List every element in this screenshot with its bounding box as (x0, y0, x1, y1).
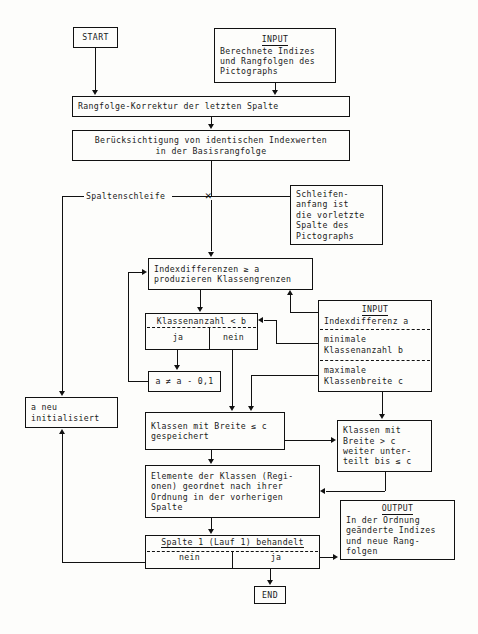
node-beruecksichtigung: Berücksichtigung von identischen Indexwe… (72, 130, 350, 161)
input-right-heading: INPUT (362, 304, 388, 315)
arrow-inputright-to-klassenbreiter (379, 414, 385, 419)
klassen-gespeichert-line2: gespeichert (146, 431, 284, 441)
output-heading-wrap: OUTPUT (341, 503, 454, 514)
edge-klassenanzahl-ja (177, 350, 178, 365)
input-right-sec1-line1: Indexdifferenz a (319, 316, 431, 326)
indexdifferenzen-line1: Indexdifferenzen ≥ a (149, 264, 312, 274)
edge-inputright-sec2-into (264, 320, 276, 321)
arrow-junction-to-indexdifferenzen (208, 252, 214, 257)
end-label: END (255, 590, 285, 600)
rangfolge-korrektur-line1: Rangfolge-Korrektur der letzten Spalte (73, 101, 349, 111)
node-a-dekrement: a ≠ a - 0,1 (148, 371, 221, 392)
edge-spalte-nein-left (62, 562, 146, 563)
edge-schleifenanfang-to-junction (211, 196, 290, 197)
schleifenanfang-line5: Pictographs (291, 231, 382, 241)
arrow-breiter-to-elemente (320, 488, 325, 494)
edge-adekrement-left (128, 381, 149, 382)
input-right-divider-2 (320, 360, 430, 361)
node-klassen-gespeichert: Klassen mit Breite ≤ c gespeichert (145, 412, 285, 450)
output-line1: In der Ordnung (341, 515, 454, 525)
edge-inputright-sec2-up (276, 320, 277, 343)
schleifenanfang-line1: Schleifen- (291, 189, 382, 199)
spaltenschleife-label: Spaltenschleife (86, 191, 165, 201)
edge-inputright-sec1-left (290, 312, 318, 313)
indexdifferenzen-line2: produzieren Klassengrenzen (149, 274, 312, 284)
input-right-divider-1 (320, 329, 430, 330)
elemente-line3: Ordnung in der vorherigen (146, 492, 319, 502)
input-top-line3: Pictographs (215, 66, 335, 76)
klassen-breiter-line3: weiter unter- (338, 446, 431, 456)
edge-inputtop-to-rangfolge (275, 83, 276, 90)
klassenanzahl-branch-yes: ja (146, 332, 210, 342)
edge-breiter-to-elemente (326, 491, 385, 492)
schleifenanfang-line4: Spalte des (291, 220, 382, 230)
arrow-klassenanzahl-ja (174, 365, 180, 370)
edge-inputright-sec3-left (251, 375, 318, 376)
edge-spalte-ja-to-end (270, 569, 271, 580)
arrow-spalte-to-output (333, 554, 338, 560)
input-top-line1: Berechnete Indizes (215, 46, 335, 56)
input-top-heading: INPUT (262, 34, 288, 45)
input-right-sec3-line2: Klassenbreite c (319, 376, 431, 386)
spalte-behandelt-branch-divider (232, 552, 233, 568)
flowchart-canvas: START INPUT Berechnete Indizes und Rangf… (0, 0, 478, 634)
a-neu-line2: initialisiert (26, 413, 117, 423)
edge-spalte-nein-up (62, 434, 63, 562)
node-klassen-breiter: Klassen mit Breite > c weiter unter- tei… (337, 420, 432, 472)
edge-junction-to-indexdifferenzen (211, 200, 212, 251)
edge-adekrement-into-index (128, 272, 142, 273)
edge-start-to-rangfolge (95, 48, 96, 90)
klassen-breiter-line1: Klassen mit (338, 425, 431, 435)
spalte-behandelt-condition: Spalte 1 (Lauf 1) behandelt (146, 537, 319, 548)
klassen-gespeichert-line1: Klassen mit Breite ≤ c (146, 421, 284, 431)
output-line2: geänderte Indizes (341, 525, 454, 535)
arrow-elemente-to-spalte (208, 529, 214, 534)
edge-inputright-sec3-down (251, 375, 252, 406)
edge-spalte-to-output (320, 557, 333, 558)
node-start: START (73, 27, 118, 48)
arrow-inputright-sec2-into (258, 317, 263, 323)
edge-gespeichert-to-elemente (211, 450, 212, 459)
node-end: END (254, 586, 286, 604)
edge-inputright-to-klassenbreiter (382, 392, 383, 414)
arrow-indexdifferenzen-to-klassenanzahl (197, 307, 203, 312)
klassenanzahl-branch-no: nein (210, 332, 257, 342)
output-heading: OUTPUT (382, 503, 414, 514)
beruecksichtigung-line1: Berücksichtigung von identischen Indexwe… (73, 135, 349, 145)
node-rangfolge-korrektur: Rangfolge-Korrektur der letzten Spalte (72, 96, 350, 117)
edge-adekrement-up (128, 272, 129, 382)
arrow-gespeichert-to-elemente (208, 459, 214, 464)
schleifenanfang-line3: die vorletzte (291, 210, 382, 220)
node-elemente: Elemente der Klassen (Regi- onen) geordn… (145, 465, 320, 518)
arrow-spalte-nein-into-a-neu (59, 429, 65, 434)
node-indexdifferenzen: Indexdifferenzen ≥ a produzieren Klassen… (148, 258, 313, 290)
edge-gespeichert-to-breiter (285, 440, 331, 441)
edge-klassenanzahl-nein (232, 350, 233, 406)
klassen-breiter-line2: Breite > c (338, 436, 431, 446)
a-neu-line1: a neu (26, 402, 117, 412)
arrow-inputtop-to-rangfolge (272, 90, 278, 95)
klassenanzahl-divider (147, 327, 256, 328)
edge-breiter-down (385, 472, 386, 491)
input-right-sec3-line1: maximale (319, 365, 431, 375)
spalte-behandelt-branch-no: nein (146, 552, 233, 562)
spalte-behandelt-condition-text: Spalte 1 (Lauf 1) behandelt (161, 537, 304, 548)
input-right-sec2-line1: minimale (319, 334, 431, 344)
input-top-line2: und Rangfolgen des (215, 56, 335, 66)
output-line3: und neue Rang- (341, 536, 454, 546)
start-label: START (74, 32, 117, 42)
arrow-gespeichert-to-breiter (331, 437, 336, 443)
edge-indexdifferenzen-to-klassenanzahl (200, 290, 201, 307)
node-klassenanzahl-decision: Klassenanzahl < b ja nein (145, 313, 258, 350)
elemente-line4: Spalte (146, 502, 319, 512)
node-output: OUTPUT In der Ordnung geänderte Indizes … (340, 500, 455, 560)
schleifenanfang-line2: anfang ist (291, 199, 382, 209)
edge-spaltenschleife-down (62, 196, 63, 391)
node-a-neu: a neu initialisiert (25, 397, 118, 428)
arrow-start-to-rangfolge (92, 90, 98, 95)
edge-rangfolge-to-beruecksichtigung (211, 117, 212, 124)
arrow-inputright-sec3-down (248, 406, 254, 411)
beruecksichtigung-line2: in der Basisrangfolge (73, 146, 349, 156)
edge-spaltenschleife-left (62, 196, 84, 197)
arrow-adekrement-into-index (142, 269, 147, 275)
